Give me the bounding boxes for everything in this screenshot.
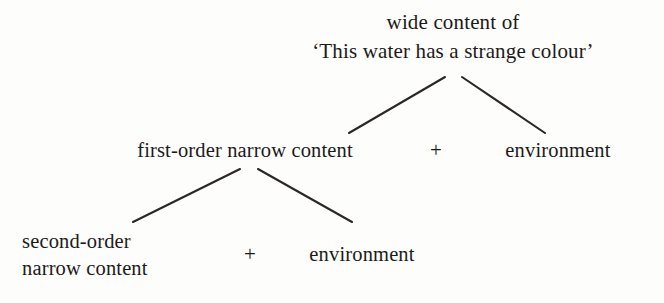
node-wide-content-quote: ‘This water has a strange colour’ xyxy=(250,37,656,66)
node-second-order-line2: narrow content xyxy=(22,255,222,282)
node-wide-content-line1: wide content of xyxy=(250,8,656,37)
edge-root-to-environment xyxy=(462,77,545,133)
node-second-order-line1: second-order xyxy=(22,228,222,255)
edge-first-order-to-environment xyxy=(258,169,352,222)
node-environment-middle: environment xyxy=(478,137,638,164)
plus-operator-bottom: + xyxy=(228,241,272,268)
node-environment-bottom: environment xyxy=(282,241,442,268)
edge-first-order-to-second-order xyxy=(133,169,240,222)
node-second-order-narrow-content: second-order narrow content xyxy=(22,228,222,281)
edge-root-to-first-order xyxy=(349,77,445,133)
node-first-order-narrow-content: first-order narrow content xyxy=(95,137,395,164)
tree-diagram-figure: wide content of ‘This water has a strang… xyxy=(0,0,664,303)
node-wide-content: wide content of ‘This water has a strang… xyxy=(250,8,656,66)
plus-operator-middle: + xyxy=(414,137,458,164)
